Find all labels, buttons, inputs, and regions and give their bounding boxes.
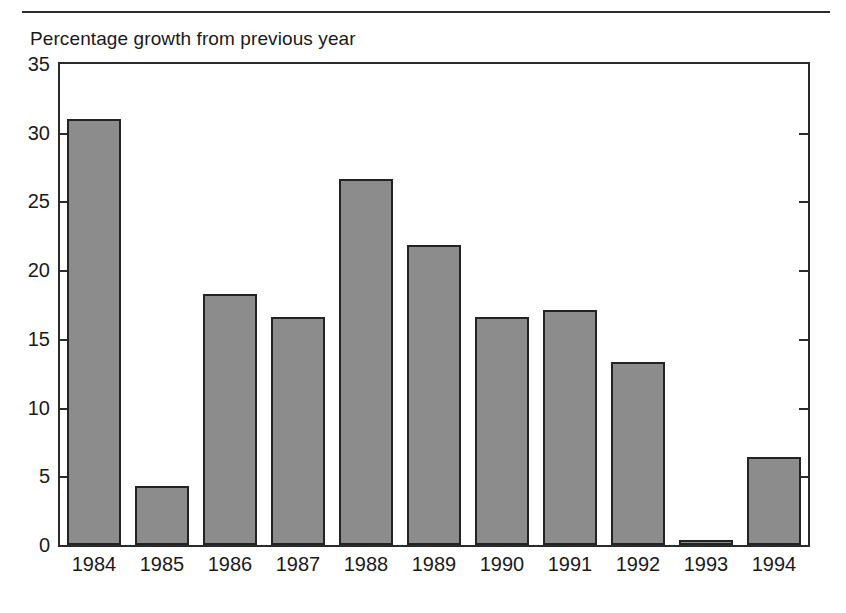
x-tick-label-1994: 1994 <box>740 553 808 575</box>
x-tick-label-1988: 1988 <box>332 553 400 575</box>
x-tick-label-1986: 1986 <box>196 553 264 575</box>
x-tick-label-1989: 1989 <box>400 553 468 575</box>
x-tick-label-1991: 1991 <box>536 553 604 575</box>
y-tick-label-15: 15 <box>6 329 50 349</box>
y-tick-label-35: 35 <box>6 54 50 74</box>
x-tick-label-1992: 1992 <box>604 553 672 575</box>
y-tick-label-25: 25 <box>6 191 50 211</box>
bar-1985 <box>135 486 189 545</box>
x-tick-label-1984: 1984 <box>60 553 128 575</box>
x-tick-label-1993: 1993 <box>672 553 740 575</box>
bar-1992 <box>611 362 665 545</box>
bar-1986 <box>203 294 257 545</box>
x-tick-label-1985: 1985 <box>128 553 196 575</box>
y-tick-mark-right-20 <box>799 270 808 272</box>
bar-1994 <box>747 457 801 545</box>
bar-1990 <box>475 317 529 545</box>
bar-1989 <box>407 245 461 545</box>
y-tick-mark-right-15 <box>799 339 808 341</box>
y-tick-mark-right-30 <box>799 133 808 135</box>
top-divider-rule <box>22 11 830 13</box>
y-tick-mark-right-10 <box>799 408 808 410</box>
y-tick-label-5: 5 <box>6 466 50 486</box>
bar-1993 <box>679 540 733 545</box>
y-axis-tick-labels: 05101520253035 <box>0 62 50 547</box>
bar-1987 <box>271 317 325 545</box>
figure-bar-chart: Percentage growth from previous year 051… <box>0 0 846 613</box>
plot-area <box>58 62 810 547</box>
y-tick-label-20: 20 <box>6 260 50 280</box>
y-tick-label-0: 0 <box>6 535 50 555</box>
plot-inner <box>60 64 808 545</box>
bar-1988 <box>339 179 393 545</box>
bar-1991 <box>543 310 597 545</box>
x-tick-label-1987: 1987 <box>264 553 332 575</box>
bar-1984 <box>67 119 121 545</box>
y-tick-label-30: 30 <box>6 123 50 143</box>
y-tick-label-10: 10 <box>6 398 50 418</box>
y-tick-mark-right-25 <box>799 201 808 203</box>
chart-title: Percentage growth from previous year <box>30 28 356 50</box>
x-tick-label-1990: 1990 <box>468 553 536 575</box>
